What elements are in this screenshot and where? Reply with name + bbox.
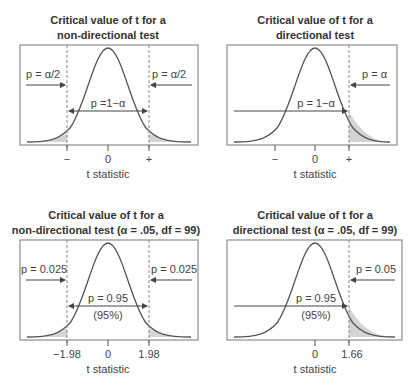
tick-label-zero: 0 xyxy=(312,348,318,360)
right-tail-label: p = 0.05 xyxy=(356,263,396,275)
x-axis-label: t statistic xyxy=(294,363,337,375)
tick-label-pos: 1.66 xyxy=(341,348,362,360)
center-sublabel: (95%) xyxy=(301,309,330,321)
panel-directional-df99: Critical value of t for a directional te… xyxy=(0,0,413,385)
plot-box xyxy=(227,240,402,340)
center-label: p = 0.95 xyxy=(296,292,336,304)
normal-curve xyxy=(234,243,395,337)
t-distribution-plot: p = 0.05 p = 0.95 (95%) 0 1.66 t statist… xyxy=(0,0,413,385)
right-tail-shade xyxy=(349,307,395,337)
